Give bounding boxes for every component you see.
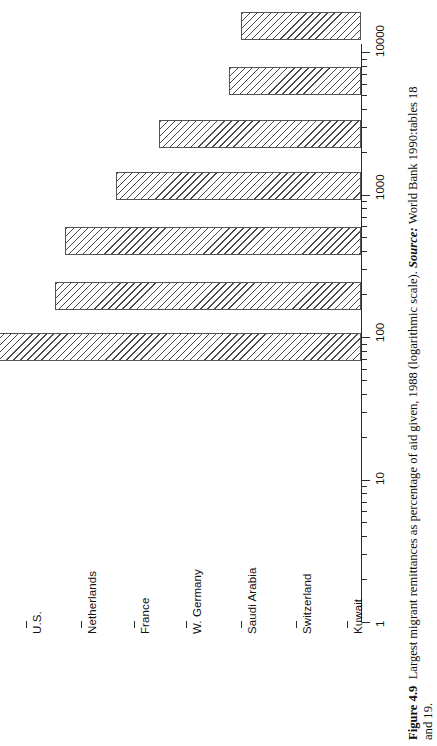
value-tick-major	[362, 195, 370, 196]
category-label: Kuwait	[352, 599, 364, 634]
value-tick-minor	[362, 359, 367, 360]
value-tick-major	[362, 52, 370, 53]
value-tick-minor	[362, 351, 367, 352]
value-tick-label: 1000	[374, 174, 386, 200]
value-tick-minor	[362, 237, 367, 238]
value-tick-minor	[362, 95, 367, 96]
value-tick-minor	[362, 208, 367, 209]
value-tick-minor	[362, 579, 367, 580]
caption-text: Largest migrant remittances as percentag…	[406, 271, 420, 679]
source-text: World Bank 1990:tables 18	[406, 86, 420, 224]
category-tick	[347, 621, 348, 628]
value-tick-minor	[362, 152, 367, 153]
value-tick-minor	[362, 511, 367, 512]
value-tick-major	[362, 480, 370, 481]
value-tick-label: 10	[374, 472, 386, 485]
value-tick-minor	[362, 66, 367, 67]
bar	[0, 333, 361, 361]
value-tick-label: 100	[374, 323, 386, 342]
category-tick	[81, 621, 82, 628]
bar	[116, 172, 361, 200]
category-tick	[134, 621, 135, 628]
value-tick-minor	[362, 294, 367, 295]
value-tick-minor	[362, 380, 367, 381]
category-label: W. Germany	[191, 569, 203, 634]
value-tick-minor	[362, 127, 367, 128]
value-tick-minor	[362, 59, 367, 60]
figure-caption: Figure 4.9 Largest migrant remittances a…	[392, 0, 437, 746]
category-tick	[26, 621, 27, 628]
bar	[65, 227, 361, 255]
value-tick-minor	[362, 536, 367, 537]
category-tick	[241, 621, 242, 628]
category-label: Saudi Arabia	[246, 568, 258, 634]
bar	[241, 12, 361, 40]
value-tick-minor	[362, 493, 367, 494]
value-tick-major	[362, 337, 370, 338]
bar	[55, 282, 361, 310]
value-tick-minor	[362, 217, 367, 218]
value-tick-minor	[362, 437, 367, 438]
figure-number: Figure 4.9	[406, 686, 420, 740]
value-tick-minor	[362, 502, 367, 503]
value-tick-minor	[362, 84, 367, 85]
value-tick-minor	[362, 412, 367, 413]
category-tick	[296, 621, 297, 628]
value-tick-minor	[362, 226, 367, 227]
value-tick-minor	[362, 269, 367, 270]
category-label: France	[139, 598, 151, 634]
value-tick-minor	[362, 74, 367, 75]
value-tick-major	[362, 622, 370, 623]
value-tick-minor	[362, 394, 367, 395]
value-tick-minor	[362, 554, 367, 555]
caption-continuation: and 19.	[421, 703, 435, 740]
bar-chart: U.S.NetherlandsFranceW. GermanySaudi Ara…	[0, 0, 370, 746]
value-tick-minor	[362, 201, 367, 202]
category-tick	[186, 621, 187, 628]
category-label: U.S.	[31, 611, 43, 634]
figure-page: U.S.NetherlandsFranceW. GermanySaudi Ara…	[0, 0, 437, 746]
source-label: Source:	[406, 227, 420, 268]
value-tick-minor	[362, 486, 367, 487]
value-tick-minor	[362, 251, 367, 252]
category-label: Netherlands	[86, 571, 98, 634]
value-tick-minor	[362, 344, 367, 345]
value-tick-label: 1	[374, 621, 386, 627]
value-tick-minor	[362, 369, 367, 370]
value-tick-label: 10000	[374, 25, 386, 57]
bar	[159, 120, 361, 148]
value-tick-minor	[362, 522, 367, 523]
category-label: Switzerland	[301, 573, 313, 634]
bar	[229, 67, 361, 95]
value-tick-minor	[362, 109, 367, 110]
